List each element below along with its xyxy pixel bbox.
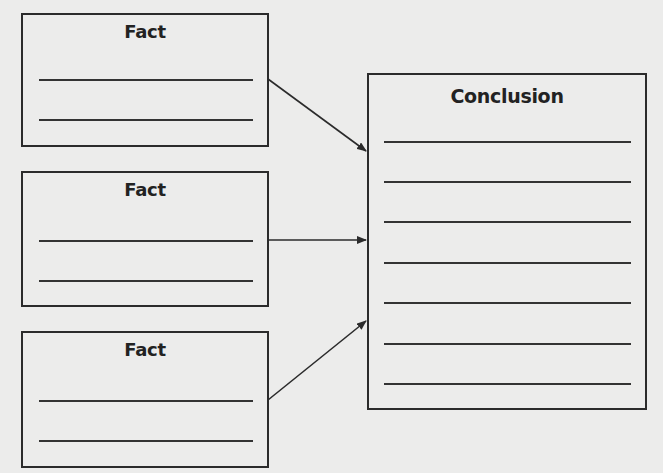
answer-line	[384, 302, 631, 304]
answer-line	[384, 383, 631, 385]
fact-box-3: Fact	[21, 331, 269, 468]
fact-box-2: Fact	[21, 171, 269, 307]
answer-line	[384, 343, 631, 345]
answer-line	[39, 400, 253, 402]
answer-line	[39, 119, 253, 121]
fact-title: Fact	[23, 21, 267, 42]
answer-line	[39, 79, 253, 81]
answer-line	[39, 240, 253, 242]
answer-line	[384, 141, 631, 143]
fact-box-1: Fact	[21, 13, 269, 147]
arrow-fact-1-to-conclusion	[268, 79, 366, 151]
answer-line	[39, 280, 253, 282]
conclusion-box: Conclusion	[367, 73, 647, 410]
answer-line	[39, 440, 253, 442]
answer-line	[384, 181, 631, 183]
answer-line	[384, 221, 631, 223]
fact-title: Fact	[23, 179, 267, 200]
arrow-fact-3-to-conclusion	[268, 321, 366, 400]
fact-title: Fact	[23, 339, 267, 360]
answer-line	[384, 262, 631, 264]
conclusion-title: Conclusion	[369, 85, 645, 107]
